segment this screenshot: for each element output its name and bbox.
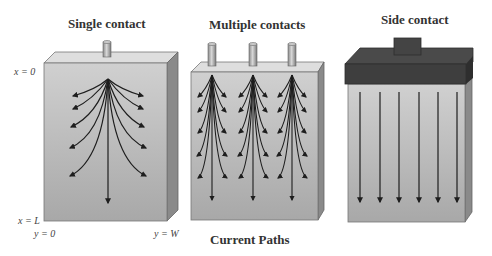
battery-multiple-contacts (191, 43, 324, 221)
battery-single-contact (44, 41, 178, 222)
diagram-canvas (0, 0, 492, 256)
side-contact-tab (394, 38, 421, 55)
battery-side-contact (345, 38, 473, 222)
contact-rod (103, 42, 111, 57)
